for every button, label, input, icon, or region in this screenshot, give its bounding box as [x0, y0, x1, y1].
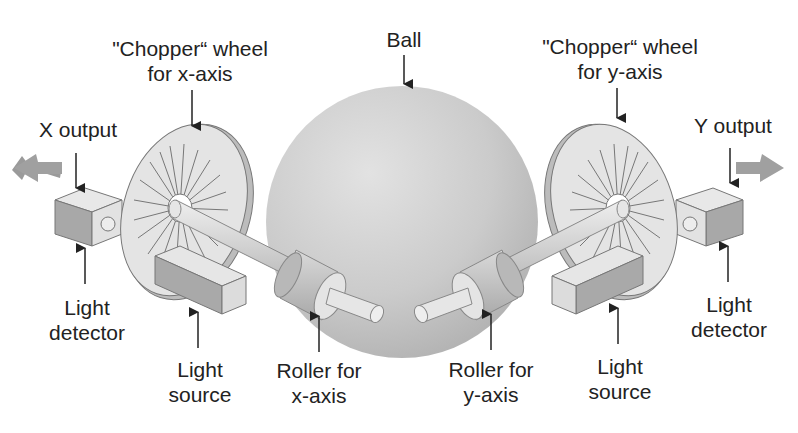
y-output-arrow-icon — [736, 154, 784, 182]
label-y-output: Y output — [694, 113, 772, 138]
label-ball: Ball — [386, 27, 421, 52]
label-chopper-wheel-x: "Chopper“ wheel for x-axis — [112, 36, 268, 86]
label-light-detector-right: Light detector — [691, 292, 767, 342]
ball — [266, 86, 538, 358]
label-x-output: X output — [39, 117, 117, 142]
label-roller-y: Roller for y-axis — [448, 357, 533, 407]
label-light-source-left: Light source — [168, 357, 231, 407]
light-detector-right — [676, 188, 743, 246]
light-detector-left — [55, 188, 122, 246]
label-light-source-right: Light source — [588, 354, 651, 404]
label-chopper-wheel-y: "Chopper“ wheel for y-axis — [542, 34, 698, 84]
x-output-arrow-icon — [12, 154, 62, 182]
label-roller-x: Roller for x-axis — [276, 358, 361, 408]
label-light-detector-left: Light detector — [49, 295, 125, 345]
